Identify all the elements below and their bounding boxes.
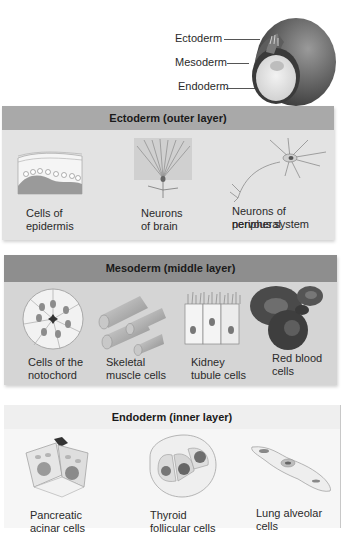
lung-alveolar-cells-icon bbox=[250, 439, 336, 495]
mesoderm-panel-body: Cells of the notochord Skeletal muscle c… bbox=[4, 282, 337, 385]
embryo-sphere-icon bbox=[246, 14, 336, 109]
item-label-line2: follicular cells bbox=[150, 522, 215, 535]
item-label-line2: cells bbox=[256, 520, 278, 533]
item-label-line2: tubule cells bbox=[191, 369, 246, 382]
peripheral-neuron-icon bbox=[230, 136, 330, 202]
skeletal-muscle-icon bbox=[96, 290, 166, 350]
thyroid-follicular-cells-icon bbox=[144, 433, 218, 499]
item-label-line1: Red blood bbox=[272, 352, 322, 365]
item-label-line2: cells bbox=[272, 365, 294, 378]
endoderm-panel: Endoderm (inner layer) Pancreatic acinar… bbox=[4, 405, 341, 528]
item-label-line1: Neurons bbox=[141, 207, 183, 220]
label-ectoderm: Ectoderm bbox=[175, 32, 222, 44]
item-label-line2: of brain bbox=[141, 220, 178, 233]
item-label-line1: Pancreatic bbox=[30, 509, 82, 522]
item-label-line2: notochord bbox=[28, 369, 77, 382]
endoderm-panel-title: Endoderm (inner layer) bbox=[4, 405, 340, 429]
item-label-line2: nervous system bbox=[232, 218, 309, 231]
label-mesoderm: Mesoderm bbox=[175, 56, 227, 68]
brain-neuron-icon bbox=[134, 138, 192, 200]
label-endoderm: Endoderm bbox=[178, 80, 229, 92]
mesoderm-panel-title: Mesoderm (middle layer) bbox=[4, 255, 337, 282]
ectoderm-panel: Ectoderm (outer layer) Cells of epidermi… bbox=[2, 106, 334, 240]
item-label-line1: Skeletal bbox=[106, 356, 145, 369]
red-blood-cells-icon bbox=[248, 284, 328, 354]
ectoderm-panel-body: Cells of epidermis Neurons of brain Neur… bbox=[2, 130, 334, 240]
item-label-line2: acinar cells bbox=[30, 522, 85, 535]
pancreatic-acinar-cells-icon bbox=[22, 435, 94, 497]
endoderm-panel-body: Pancreatic acinar cells Thyroid follicul… bbox=[4, 429, 340, 528]
ectoderm-panel-title: Ectoderm (outer layer) bbox=[2, 106, 334, 130]
mesoderm-panel: Mesoderm (middle layer) Cells of the not… bbox=[4, 255, 337, 385]
item-label-line2: muscle cells bbox=[106, 369, 166, 382]
notochord-cells-icon bbox=[22, 288, 84, 350]
kidney-tubule-cells-icon bbox=[184, 290, 242, 348]
item-label-line1: Cells of the bbox=[28, 356, 83, 369]
item-label-line1: Thyroid bbox=[150, 509, 187, 522]
epidermis-cells-icon bbox=[18, 150, 82, 196]
item-label-line1: Lung alveolar bbox=[256, 507, 322, 520]
item-label-line2: epidermis bbox=[26, 220, 74, 233]
item-label-line1: Kidney bbox=[191, 356, 225, 369]
item-label-line1: Cells of bbox=[26, 207, 63, 220]
